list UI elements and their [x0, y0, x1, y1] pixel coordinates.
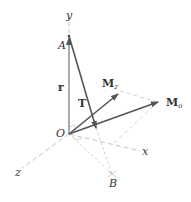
o-to-b-dashed — [69, 134, 112, 174]
moment-z-main: M — [102, 77, 114, 90]
point-b-label: B — [109, 178, 117, 189]
mo-projection-dashed — [112, 102, 158, 145]
moment-o-label: Mo — [166, 97, 182, 110]
mz-to-mo-dashed — [120, 91, 158, 102]
moment-o-main: M — [166, 96, 178, 109]
y-axis-label: y — [66, 10, 72, 21]
vector-t — [69, 36, 96, 128]
moment-z-subscript: z — [114, 83, 118, 91]
moment-z-label: Mz — [102, 78, 118, 91]
vector-t-label: T — [78, 98, 86, 109]
moment-o-subscript: o — [178, 102, 182, 110]
vector-mz — [69, 94, 118, 134]
z-axis-label: z — [15, 167, 21, 178]
x-axis-label: x — [142, 146, 148, 157]
point-o-label: O — [56, 128, 65, 139]
t-extension-dashed — [96, 128, 112, 174]
moment-diagram — [0, 0, 191, 202]
x-axis-line — [69, 134, 140, 151]
point-a-label: A — [58, 40, 66, 51]
vector-r-label: r — [58, 82, 64, 93]
